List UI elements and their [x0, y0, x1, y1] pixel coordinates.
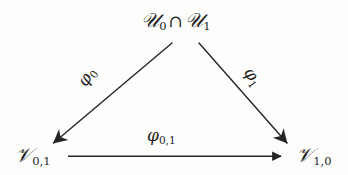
edge-label-phi01: φ0,1 [147, 127, 176, 145]
node-top-right-subscript: 1 [203, 19, 210, 33]
node-top-left-subscript: 0 [159, 19, 166, 33]
commutative-diagram: 𝒰0∩𝒰1 𝒱0,1 𝒱1,0 φ0 φ1 φ0,1 [0, 0, 348, 175]
node-bottom-left-subscript: 0,1 [32, 154, 50, 168]
node-top-right-set: 𝒰 [185, 8, 203, 32]
edge-label-phi01-subscript: 0,1 [159, 134, 176, 146]
node-top-left-set: 𝒰 [141, 8, 159, 32]
node-top-intersection: 𝒰0∩𝒰1 [141, 10, 211, 33]
node-bottom-right-v10: 𝒱1,0 [296, 145, 332, 168]
node-bottom-right-subscript: 1,0 [313, 154, 331, 168]
node-bottom-left-v01: 𝒱0,1 [15, 145, 51, 168]
node-bottom-right-set: 𝒱 [296, 143, 313, 167]
node-bottom-left-set: 𝒱 [15, 143, 32, 167]
edge-label-phi01-base: φ [147, 125, 159, 145]
intersection-icon: ∩ [167, 11, 185, 31]
edge-phi1-arrow [199, 43, 287, 143]
